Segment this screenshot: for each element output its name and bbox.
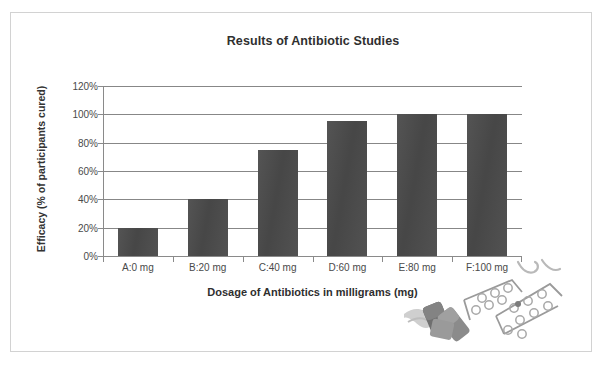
y-axis-title: Efficacy (% of participants cured) [32,80,50,258]
y-axis-tick-label: 40% [52,194,98,205]
y-tick-mark [98,199,103,200]
y-axis-title-label: Efficacy (% of participants cured) [35,86,47,252]
y-tick-mark [98,171,103,172]
y-axis-tick-label: 60% [52,166,98,177]
bar-c-40-mg [258,150,298,256]
y-axis-tick-label: 120% [52,81,98,92]
y-tick-mark [98,143,103,144]
x-axis-tick-label: A:0 mg [103,262,173,273]
plot-area [103,86,522,256]
y-tick-mark [98,114,103,115]
y-axis-tick-label: 80% [52,138,98,149]
gridline-60% [103,171,522,172]
y-axis-tick-label: 100% [52,109,98,120]
bar-e-80-mg [397,114,437,256]
gridline-100% [103,114,522,115]
y-axis-tick-label: 20% [52,223,98,234]
x-axis-tick-label: F:100 mg [452,262,522,273]
x-axis-title: Dosage of Antibiotics in milligrams (mg) [103,286,522,298]
x-axis-tick-label: B:20 mg [173,262,243,273]
y-tick-mark [98,86,103,87]
gridline-40% [103,199,522,200]
bar-b-20-mg [188,199,228,256]
gridline-80% [103,143,522,144]
chart-title: Results of Antibiotic Studies [103,34,523,48]
bar-d-60-mg [327,121,367,256]
x-axis-tick-labels: A:0 mgB:20 mgC:40 mgD:60 mgE:80 mgF:100 … [103,262,522,276]
x-axis-tick-label: C:40 mg [243,262,313,273]
bar-f-100-mg [467,114,507,256]
gridline-20% [103,228,522,229]
y-axis-tick-label: 0% [52,251,98,262]
y-tick-mark [98,228,103,229]
bar-a-0-mg [118,228,158,256]
x-axis-tick-label: D:60 mg [313,262,383,273]
gridline-120% [103,86,522,87]
y-axis-tick-labels: 0%20%40%60%80%100%120% [52,86,98,257]
page-canvas: Results of Antibiotic Studies Efficacy (… [0,0,605,370]
x-axis-tick-label: E:80 mg [382,262,452,273]
